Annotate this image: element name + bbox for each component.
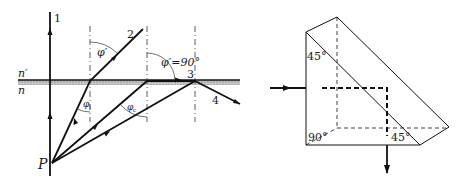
- prism-diagram: [270, 17, 449, 174]
- angle-grazing-label: φ′=90°: [161, 56, 200, 69]
- normal-lines: [90, 26, 195, 122]
- interface-band: [18, 80, 240, 85]
- prism-edges: [306, 17, 449, 145]
- ray-2-label: 2: [127, 28, 134, 41]
- arrow-icon: [233, 99, 240, 104]
- ray-1-label: 1: [54, 12, 61, 25]
- arrow-icon: [283, 85, 291, 91]
- arrow-icon: [384, 165, 390, 174]
- point-p-label: P: [37, 156, 48, 172]
- prism-angle-bottom-right: 45°: [391, 131, 411, 144]
- angle-critical-sub: c: [133, 106, 137, 113]
- prism-angle-top: 45°: [307, 50, 327, 63]
- ray-4-label: 4: [212, 94, 219, 107]
- refraction-diagram: n′ n P 1 2 3 4 φ′ φ i φ c φ′=90°: [18, 12, 240, 176]
- angle-refracted-label: φ′: [97, 46, 108, 59]
- arrow-icon: [48, 112, 53, 119]
- angle-incident-sub: i: [89, 103, 91, 110]
- medium-upper-label: n′: [18, 67, 28, 80]
- prism-angle-bottom-left: 90°: [308, 131, 328, 144]
- medium-lower-label: n: [18, 84, 25, 97]
- optics-figure: n′ n P 1 2 3 4 φ′ φ i φ c φ′=90°: [0, 0, 466, 183]
- arrow-icon: [48, 28, 53, 35]
- ray-3-label: 3: [187, 68, 194, 81]
- prism-hidden-edges: [306, 17, 449, 145]
- internal-beam: [322, 88, 387, 136]
- arrow-icon: [74, 118, 79, 125]
